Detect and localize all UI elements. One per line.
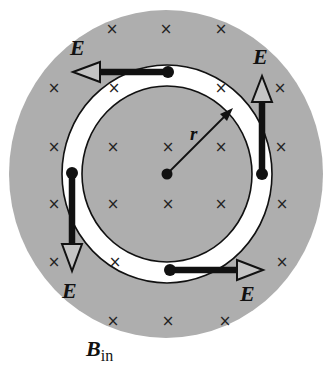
x-mark: × bbox=[215, 195, 228, 213]
x-mark: × bbox=[162, 138, 175, 156]
x-mark: × bbox=[106, 20, 119, 38]
x-mark: × bbox=[107, 138, 120, 156]
x-mark: × bbox=[215, 138, 228, 156]
x-mark: × bbox=[215, 79, 228, 97]
x-mark: × bbox=[276, 195, 289, 213]
x-mark: × bbox=[215, 20, 228, 38]
b-field-symbol: B bbox=[85, 336, 101, 361]
x-mark: × bbox=[48, 195, 61, 213]
x-mark: × bbox=[107, 312, 120, 330]
x-mark: × bbox=[275, 138, 288, 156]
x-mark: × bbox=[48, 138, 61, 156]
x-mark: × bbox=[48, 79, 61, 97]
x-mark: × bbox=[162, 312, 175, 330]
x-mark: × bbox=[160, 20, 173, 38]
x-mark: × bbox=[162, 195, 175, 213]
x-mark: × bbox=[108, 79, 121, 97]
e-label-right: E bbox=[252, 44, 268, 69]
b-field-label: Bin bbox=[85, 336, 113, 364]
x-mark: × bbox=[107, 195, 120, 213]
center-point bbox=[162, 169, 173, 180]
x-mark: × bbox=[48, 253, 61, 271]
x-mark: × bbox=[274, 79, 287, 97]
radius-label: r bbox=[190, 123, 198, 144]
x-mark: × bbox=[219, 312, 232, 330]
e-label-bottom: E bbox=[239, 281, 255, 306]
e-label-left: E bbox=[61, 278, 77, 303]
b-field-subscript: in bbox=[101, 347, 113, 364]
x-mark: × bbox=[276, 253, 289, 271]
induced-e-field-diagram: ××××××××××××××××××××××× r E E E E Bin bbox=[0, 0, 325, 369]
e-label-top: E bbox=[69, 35, 85, 60]
x-mark: × bbox=[109, 253, 122, 271]
